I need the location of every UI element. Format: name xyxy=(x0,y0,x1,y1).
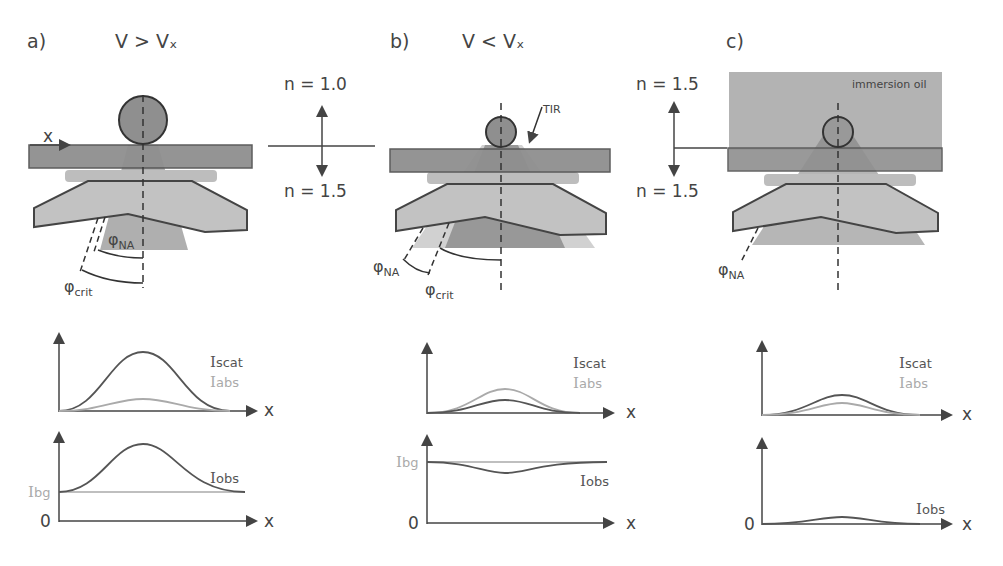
iscat-label: Iscat xyxy=(210,353,243,371)
coverslip xyxy=(29,145,252,168)
panel-c-label: c) xyxy=(726,30,744,52)
zero-label: 0 xyxy=(40,511,51,531)
plot-c-scat-abs: x Iscat Iabs xyxy=(762,343,972,424)
iabs-curve xyxy=(427,389,580,413)
x-axis-label: x xyxy=(264,400,274,420)
crit-angle-arc xyxy=(440,248,501,260)
phi-na-label: φNA xyxy=(718,260,745,282)
iabs-label: Iabs xyxy=(899,374,928,392)
phi-na-label: φNA xyxy=(373,257,400,279)
index-top-label: n = 1.0 xyxy=(284,74,347,94)
phi-crit-label: φcrit xyxy=(64,277,93,299)
iabs-curve xyxy=(762,403,920,415)
plot-a-scat-abs: x Iscat Iabs xyxy=(59,335,274,420)
refractive-index-ab: n = 1.0 n = 1.5 xyxy=(268,74,375,201)
na-angle-arc xyxy=(403,259,430,273)
iobs-label: Iobs xyxy=(580,472,609,490)
immersion-layer xyxy=(427,172,579,184)
iobs-label: Iobs xyxy=(210,469,239,487)
iscat-label: Iscat xyxy=(573,354,606,372)
diagram-canvas: a) V > Vₓ x φNA φcrit n = 1.0 n = 1.5 b) xyxy=(0,0,1003,566)
iscat-curve xyxy=(427,400,580,413)
zero-label: 0 xyxy=(408,513,419,533)
iobs-label: Iobs xyxy=(916,500,945,518)
iabs-label: Iabs xyxy=(573,374,602,392)
index-bottom-label: n = 1.5 xyxy=(636,181,699,201)
coverslip xyxy=(390,149,610,172)
tir-label: TIR xyxy=(542,103,561,116)
panel-a-label: a) xyxy=(27,30,46,52)
iscat-curve xyxy=(59,352,230,411)
iscat-label: Iscat xyxy=(899,354,932,372)
panel-a-condition: V > Vₓ xyxy=(115,30,177,52)
x-axis-label: x xyxy=(43,126,53,146)
index-top-label: n = 1.5 xyxy=(636,74,699,94)
plot-b-scat-abs: x Iscat Iabs xyxy=(427,345,636,422)
plot-a-obs: x 0 Ibg Iobs xyxy=(28,434,274,531)
plot-c-obs: x 0 Iobs xyxy=(744,440,972,534)
x-axis-label: x xyxy=(626,402,636,422)
panel-a: a) V > Vₓ x φNA φcrit xyxy=(27,30,252,299)
x-axis-label: x xyxy=(962,514,972,534)
x-axis-label: x xyxy=(626,513,636,533)
coverslip xyxy=(728,148,942,171)
plot-b-obs: x 0 Ibg Iobs xyxy=(396,437,636,533)
panel-c: c) immersion oil φNA xyxy=(718,30,942,295)
x-axis-label: x xyxy=(264,511,274,531)
crit-line xyxy=(80,218,98,272)
iabs-label: Iabs xyxy=(210,373,239,391)
crit-angle-arc xyxy=(82,270,143,283)
tir-arrow xyxy=(530,107,542,141)
iobs-curve xyxy=(762,517,920,524)
panel-b: b) V < Vₓ TIR φNA φcrit xyxy=(373,30,610,302)
ibg-label: Ibg xyxy=(28,483,50,501)
phi-crit-label: φcrit xyxy=(425,280,454,302)
panel-b-condition: V < Vₓ xyxy=(462,30,524,52)
x-axis-label: x xyxy=(962,404,972,424)
refractive-index-c: n = 1.5 n = 1.5 xyxy=(636,74,727,201)
index-bottom-label: n = 1.5 xyxy=(284,181,347,201)
ibg-label: Ibg xyxy=(396,453,418,471)
zero-label: 0 xyxy=(744,514,755,534)
panel-b-label: b) xyxy=(390,30,409,52)
iscat-curve xyxy=(762,395,920,415)
immersion-oil-label: immersion oil xyxy=(852,78,927,91)
